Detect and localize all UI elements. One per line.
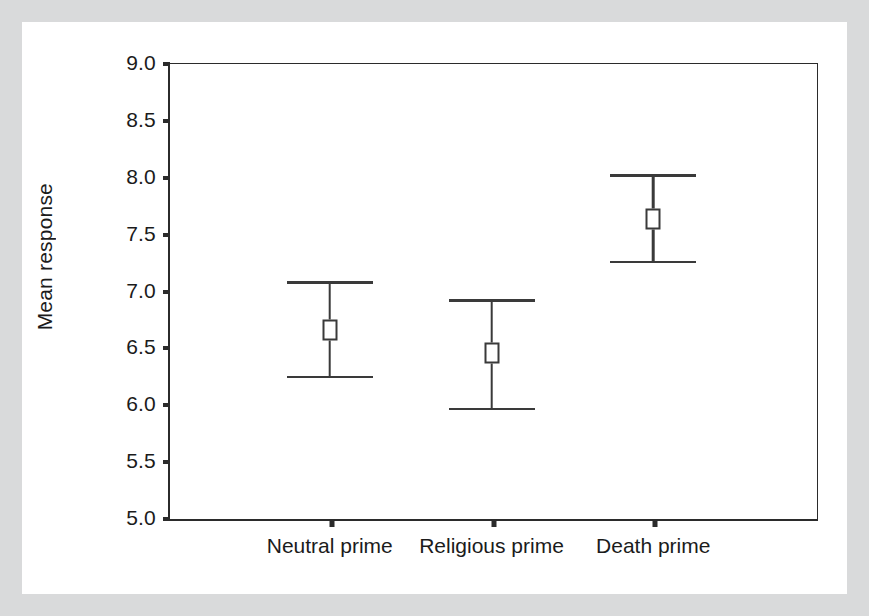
y-axis-tick-label: 8.0 xyxy=(126,165,156,189)
error-bar-upper-cap xyxy=(449,299,535,302)
y-axis-tick-label: 9.0 xyxy=(126,51,156,75)
error-bar-group xyxy=(285,63,375,518)
data-point-marker xyxy=(322,320,337,341)
y-axis-tick xyxy=(163,233,170,237)
y-axis-tick xyxy=(163,517,170,521)
y-axis-tick-label: 8.5 xyxy=(126,108,156,132)
error-bar-upper-cap xyxy=(610,174,696,177)
x-axis-tick-label: Religious prime xyxy=(419,534,564,558)
error-bar-lower-cap xyxy=(449,408,535,411)
y-axis-tick xyxy=(163,403,170,407)
y-axis-tick xyxy=(163,176,170,180)
chart-plot: Mean response 9.08.58.07.57.06.56.05.55.… xyxy=(0,0,869,616)
y-axis-tick xyxy=(163,62,170,66)
y-axis-tick xyxy=(163,290,170,294)
error-bar-upper-cap xyxy=(287,281,373,284)
data-point-marker xyxy=(484,343,499,364)
x-axis-tick xyxy=(491,519,496,527)
y-axis-tick-label: 5.0 xyxy=(126,506,156,530)
y-axis-tick xyxy=(163,346,170,350)
figure-container: Mean response 9.08.58.07.57.06.56.05.55.… xyxy=(0,0,869,616)
y-axis-tick-label: 7.5 xyxy=(126,222,156,246)
x-axis-tick xyxy=(329,519,334,527)
y-axis-tick-label: 6.5 xyxy=(126,335,156,359)
x-axis-tick xyxy=(653,519,658,527)
y-axis-tick-label: 6.0 xyxy=(126,392,156,416)
data-point-marker xyxy=(646,208,661,229)
x-axis-tick-label: Neutral prime xyxy=(267,534,393,558)
y-axis-title: Mean response xyxy=(33,183,67,330)
y-axis-tick xyxy=(163,460,170,464)
error-bar-lower-cap xyxy=(287,376,373,379)
y-axis-tick-label: 5.5 xyxy=(126,449,156,473)
y-axis-tick xyxy=(163,119,170,123)
error-bar-group xyxy=(447,63,537,518)
error-bar-lower-cap xyxy=(610,261,696,264)
error-bar-group xyxy=(608,63,698,518)
y-axis-tick-label: 7.0 xyxy=(126,279,156,303)
x-axis-tick-label: Death prime xyxy=(596,534,710,558)
